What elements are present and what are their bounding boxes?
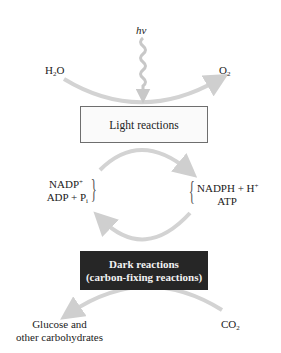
- oxygen-base: O: [219, 64, 227, 76]
- water-label: H2O: [45, 64, 64, 81]
- co2-base: CO: [221, 318, 236, 330]
- nadp-sup: +: [79, 178, 83, 186]
- adp-pi-base: ADP + P: [47, 191, 86, 203]
- co2-sub: 2: [236, 324, 240, 332]
- photon-label: hv: [136, 24, 146, 37]
- glucose-line1: Glucose and: [12, 318, 107, 331]
- cycle-left-labels: NADP+ ADP + Pi: [44, 176, 88, 208]
- atp-text: ATP: [217, 195, 237, 207]
- glucose-line2: other carbohydrates: [12, 331, 107, 344]
- arrows-layer: [0, 0, 281, 353]
- oxygen-label: O2: [219, 64, 230, 81]
- right-brace-icon: {: [189, 177, 195, 205]
- water-to-oxygen-arrow: [64, 79, 218, 102]
- dark-reactions-subtitle: (carbon-fixing reactions): [86, 271, 202, 284]
- co2-to-glucose-arrow: [70, 287, 222, 313]
- adp-pi-sub: i: [86, 197, 88, 205]
- nadph-sup: +: [255, 182, 259, 190]
- light-reactions-label: Light reactions: [109, 119, 178, 131]
- oxygen-sub: 2: [227, 70, 231, 78]
- light-photon-arrow: [141, 38, 146, 96]
- nadph-base: NADPH + H: [197, 182, 255, 194]
- cycle-arrow-left: [102, 213, 190, 239]
- light-reactions-box: Light reactions: [80, 106, 208, 143]
- cycle-arrow-right: [100, 150, 188, 170]
- dark-reactions-title: Dark reactions: [109, 258, 179, 271]
- left-brace-icon: }: [91, 175, 97, 203]
- cycle-right-labels: NADPH + H+ ATP: [197, 180, 259, 208]
- nadp-base: NADP: [49, 178, 79, 190]
- water-base: H: [45, 64, 53, 76]
- hv-text: hv: [136, 24, 146, 36]
- dark-reactions-box: Dark reactions (carbon-fixing reactions): [80, 251, 208, 290]
- co2-label: CO2: [221, 318, 240, 335]
- glucose-label: Glucose and other carbohydrates: [12, 318, 107, 344]
- water-tail: O: [56, 64, 64, 76]
